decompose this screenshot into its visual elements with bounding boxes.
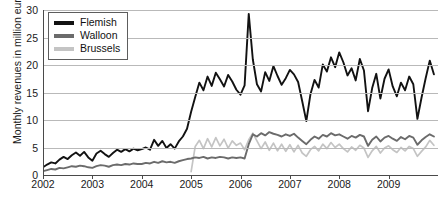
x-tick-label-2009: 2009 xyxy=(377,178,400,190)
y-axis-line xyxy=(43,10,44,176)
legend-label-flemish: Flemish xyxy=(80,17,117,28)
x-tick-label-2003: 2003 xyxy=(81,178,104,190)
x-tick-label-2002: 2002 xyxy=(31,178,54,190)
y-tick-label-10: 10 xyxy=(0,115,38,126)
legend-swatch-brussels xyxy=(54,47,74,51)
y-axis-tick-labels: 051015202530 xyxy=(0,10,38,175)
legend-item-flemish: Flemish xyxy=(54,16,120,29)
revenue-line-chart: Monthly revenues in million euros 051015… xyxy=(0,0,446,202)
y-tick-label-30: 30 xyxy=(0,5,38,16)
x-tick-label-2005: 2005 xyxy=(179,178,202,190)
x-tick-label-2004: 2004 xyxy=(130,178,153,190)
gridline-20 xyxy=(43,65,438,66)
legend-swatch-flemish xyxy=(54,21,74,25)
y-tick-label-15: 15 xyxy=(0,87,38,98)
legend-label-walloon: Walloon xyxy=(80,30,118,41)
chart-legend: Flemish Walloon Brussels xyxy=(48,12,128,60)
gridline-5 xyxy=(43,148,438,149)
x-axis-tick-labels: 20022003200420052006200720082009 xyxy=(43,178,446,194)
legend-label-brussels: Brussels xyxy=(80,43,120,54)
x-tick-label-2008: 2008 xyxy=(328,178,351,190)
gridline-10 xyxy=(43,120,438,121)
legend-swatch-walloon xyxy=(54,34,74,38)
y-tick-label-20: 20 xyxy=(0,60,38,71)
gridline-30 xyxy=(43,10,438,11)
legend-item-walloon: Walloon xyxy=(54,29,120,42)
gridline-15 xyxy=(43,93,438,94)
x-tick-label-2007: 2007 xyxy=(278,178,301,190)
y-tick-label-5: 5 xyxy=(0,142,38,153)
x-tick-label-2006: 2006 xyxy=(229,178,252,190)
legend-item-brussels: Brussels xyxy=(54,42,120,55)
y-tick-label-25: 25 xyxy=(0,32,38,43)
